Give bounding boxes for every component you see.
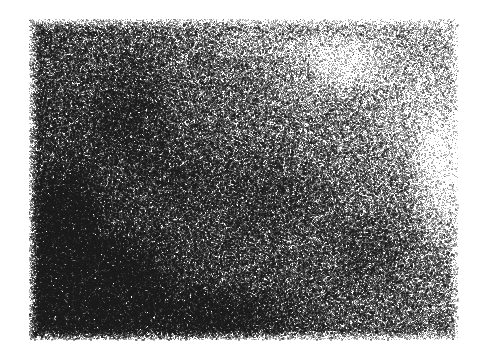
grain-texture-canvas	[0, 0, 484, 362]
figure-root: Dense random black-and-white stipple gra…	[0, 0, 484, 362]
